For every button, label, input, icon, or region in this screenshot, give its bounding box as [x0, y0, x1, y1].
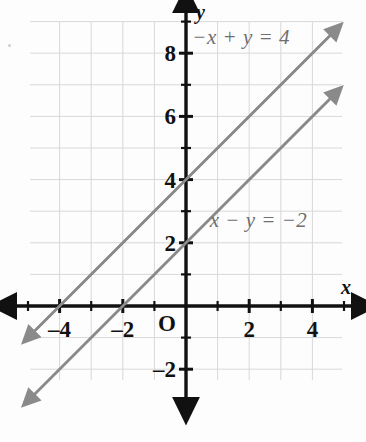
y-tick-label: 8 [132, 42, 176, 65]
coordinate-plane-svg [0, 0, 366, 442]
equation-label-line-2: x − y = −2 [210, 208, 308, 233]
y-tick-label: 2 [132, 232, 176, 255]
y-tick-label: 4 [132, 169, 176, 192]
scan-speck [8, 44, 11, 47]
origin-label: O [152, 312, 182, 335]
x-tick-label: –4 [40, 318, 80, 341]
x-tick-label: 4 [292, 318, 332, 341]
x-tick-label: –2 [103, 318, 143, 341]
x-tick-label: 2 [229, 318, 269, 341]
y-axis-label: y [196, 1, 205, 24]
y-tick-label: –2 [132, 358, 176, 381]
equation-label-line-1: −x + y = 4 [192, 25, 290, 50]
y-tick-label: 6 [132, 105, 176, 128]
axes [12, 8, 356, 402]
x-axis-label: x [341, 276, 351, 299]
graph-figure: 8642–2–4–224 x y O −x + y = 4 x − y = −2 [0, 0, 366, 442]
